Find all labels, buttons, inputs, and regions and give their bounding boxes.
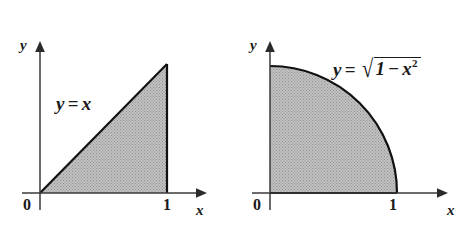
- right-equation-exponent: 2: [412, 57, 418, 69]
- left-equation-rhs: x: [82, 94, 92, 113]
- right-equation-equals: =: [342, 60, 359, 79]
- left-y-axis-label: y: [20, 38, 27, 53]
- right-equation-radical-group: √ 1−x2: [362, 57, 421, 79]
- left-origin-label: 0: [23, 197, 31, 213]
- left-x-axis-label: x: [196, 203, 204, 218]
- right-x-axis-arrowhead: [437, 188, 448, 198]
- right-x-axis-label: x: [447, 203, 455, 218]
- right-equation-minus: −: [385, 58, 402, 79]
- right-origin-label: 0: [253, 197, 261, 213]
- right-y-axis-label: y: [250, 38, 257, 53]
- figure-board: y x 0 1 y = x y x 0 1 y = √ 1−x2: [0, 0, 474, 247]
- left-tick-label-one: 1: [163, 197, 171, 213]
- right-panel-graphic: [0, 0, 474, 247]
- right-tick-label-one: 1: [389, 197, 397, 213]
- left-equation-lhs: y: [56, 94, 65, 113]
- left-equation-equals: =: [65, 94, 82, 113]
- radical-sign-icon: √: [362, 58, 373, 80]
- right-y-axis-arrowhead: [265, 41, 275, 52]
- right-equation-radicand-var: x: [402, 58, 412, 79]
- right-equation-lhs: y: [333, 60, 342, 79]
- right-shaded-region: [270, 66, 397, 193]
- right-equation-radicand-first: 1: [376, 58, 386, 79]
- right-equation-radicand: 1−x2: [374, 57, 421, 79]
- left-equation-label: y = x: [56, 94, 91, 113]
- right-equation-label: y = √ 1−x2: [333, 57, 421, 79]
